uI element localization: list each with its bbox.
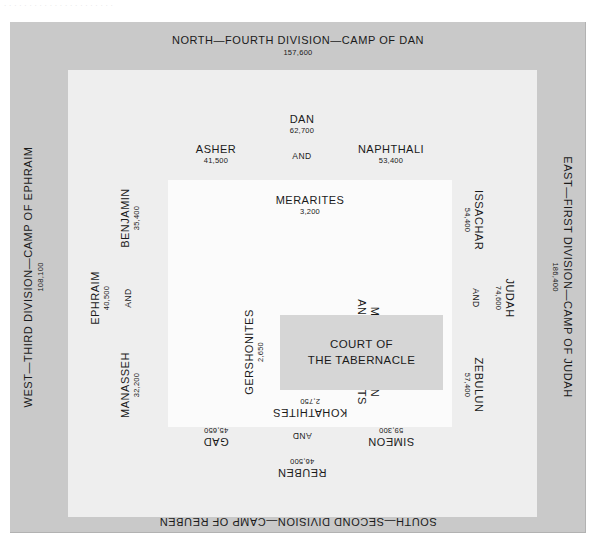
tribe-ephraim: EPHRAIM 40,500: [89, 271, 112, 325]
tribe-reuben-count: 46,500: [278, 457, 327, 466]
tribe-naphtali-name: NAPHTHALI: [358, 143, 424, 156]
division-north-total: 157,600: [172, 48, 424, 57]
conjunction-south: AND: [292, 431, 311, 441]
tribe-zebulun-name: ZEBULUN: [472, 358, 485, 413]
tribe-dan-name: DAN: [290, 113, 315, 126]
tribe-asher-name: ASHER: [196, 143, 236, 156]
division-north: NORTH—FOURTH DIVISION—CAMP OF DAN 157,60…: [172, 34, 424, 57]
levite-merarites-name: MERARITES: [276, 194, 345, 207]
levite-gershonites: GERSHONITES 2,650: [243, 309, 266, 395]
levite-merarites-count: 3,200: [276, 208, 345, 217]
tribe-simeon: SIMEON 59,300: [368, 426, 414, 449]
division-east-label: EAST—FIRST DIVISION—CAMP OF JUDAH: [560, 156, 573, 397]
division-east: EAST—FIRST DIVISION—CAMP OF JUDAH 186,40…: [550, 156, 573, 397]
conjunction-north-label: AND: [292, 151, 311, 161]
tribe-asher-count: 41,500: [196, 157, 236, 166]
tribe-zebulun: ZEBULUN 57,400: [463, 358, 486, 413]
tribe-gad-name: GAD: [203, 435, 228, 448]
division-west-total: 108,100: [37, 146, 46, 407]
scan-artifact-strip: · · · · · · · · · · · · · · · · · · · · …: [0, 0, 601, 12]
tribe-gad: GAD 45,650: [203, 426, 228, 449]
tribe-judah-count: 74,600: [494, 278, 503, 317]
tribe-issachar-name: ISSACHAR: [472, 190, 485, 250]
tribe-asher: ASHER 41,500: [196, 143, 236, 166]
court-label-line2: THE TABERNACLE: [308, 354, 415, 366]
conjunction-west-label: AND: [123, 288, 133, 307]
division-north-label: NORTH—FOURTH DIVISION—CAMP OF DAN: [172, 34, 424, 47]
division-east-total: 186,400: [550, 156, 559, 397]
tribe-judah-name: JUDAH: [503, 278, 516, 317]
court-of-the-tabernacle: COURT OF THE TABERNACLE: [280, 315, 443, 390]
tribe-dan: DAN 62,700: [290, 113, 315, 136]
tribe-simeon-name: SIMEON: [368, 435, 414, 448]
tribe-reuben: REUBEN 46,500: [278, 457, 327, 480]
conjunction-south-label: AND: [292, 431, 311, 441]
levite-kohathites: KOHATHITES 2,750: [273, 397, 347, 420]
conjunction-east: AND: [471, 288, 481, 307]
tribe-naphtali: NAPHTHALI 53,400: [358, 143, 424, 166]
conjunction-north: AND: [292, 151, 311, 161]
tribe-reuben-name: REUBEN: [278, 466, 327, 479]
tribe-benjamin-name: BENJAMIN: [119, 188, 132, 248]
tribe-dan-count: 62,700: [290, 127, 315, 136]
levite-kohathites-count: 2,750: [273, 397, 347, 406]
tribe-manasseh-name: MANASSEH: [119, 352, 132, 418]
levite-kohathites-name: KOHATHITES: [273, 406, 347, 419]
inner-frame-levites: MERARITES 3,200 GERSHONITES 2,650 KOHATH…: [168, 180, 452, 427]
tribe-manasseh-count: 32,200: [133, 352, 142, 418]
tribe-naphtali-count: 53,400: [358, 157, 424, 166]
tribe-issachar-count: 54,400: [463, 190, 472, 250]
conjunction-west: AND: [123, 288, 133, 307]
levite-gershonites-count: 2,650: [257, 309, 266, 395]
division-west: WEST—THIRD DIVISION—CAMP OF EPHRAIM 108,…: [22, 146, 45, 407]
tribe-issachar: ISSACHAR 54,400: [463, 190, 486, 250]
tribe-judah: JUDAH 74,600: [494, 278, 517, 317]
levite-merarites: MERARITES 3,200: [276, 194, 345, 217]
mid-frame-tribes: DAN 62,700 ASHER 41,500 NAPHTHALI 53,400…: [68, 70, 537, 517]
tribe-manasseh: MANASSEH 32,200: [119, 352, 142, 418]
tribe-ephraim-name: EPHRAIM: [89, 271, 102, 325]
court-label: COURT OF THE TABERNACLE: [308, 337, 415, 368]
camp-of-israel-diagram: · · · · · · · · · · · · · · · · · · · · …: [0, 0, 601, 559]
court-label-line1: COURT OF: [330, 338, 393, 350]
conjunction-east-label: AND: [471, 288, 481, 307]
levite-gershonites-name: GERSHONITES: [243, 309, 256, 395]
division-west-label: WEST—THIRD DIVISION—CAMP OF EPHRAIM: [22, 146, 35, 407]
tribe-ephraim-count: 40,500: [103, 271, 112, 325]
tribe-zebulun-count: 57,400: [463, 358, 472, 413]
outer-frame-divisions: NORTH—FOURTH DIVISION—CAMP OF DAN 157,60…: [10, 22, 586, 533]
tribe-benjamin-count: 35,400: [133, 188, 142, 248]
tribe-benjamin: BENJAMIN 35,400: [119, 188, 142, 248]
